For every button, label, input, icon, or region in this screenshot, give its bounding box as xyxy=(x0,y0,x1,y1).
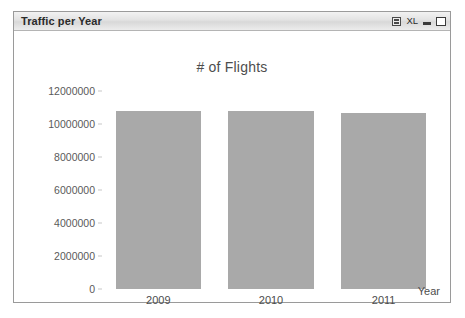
minimize-icon[interactable] xyxy=(423,17,431,25)
y-axis-tick-mark xyxy=(98,223,102,224)
y-axis-tick-mark xyxy=(98,289,102,290)
x-axis-title: Year xyxy=(418,285,440,297)
y-axis-tick-mark xyxy=(98,124,102,125)
y-axis-tick-label: 8000000 xyxy=(54,151,102,163)
plot-area[interactable]: 0200000040000006000000800000010000000120… xyxy=(102,91,440,289)
maximize-icon[interactable] xyxy=(436,17,446,26)
chart-object-window[interactable]: Traffic per Year XL # of Flights 0200000… xyxy=(13,11,451,303)
title-bar[interactable]: Traffic per Year XL xyxy=(14,12,450,31)
bar-2009[interactable] xyxy=(116,111,202,289)
y-axis-tick-mark xyxy=(98,256,102,257)
title-bar-controls: XL xyxy=(392,16,446,26)
y-axis-tick-mark xyxy=(98,190,102,191)
chart-body[interactable]: # of Flights 020000004000000600000080000… xyxy=(14,31,450,302)
print-icon[interactable] xyxy=(392,17,401,26)
x-axis-tick-label: 2009 xyxy=(146,294,170,306)
chart-title: # of Flights xyxy=(14,59,450,75)
y-axis-tick-label: 10000000 xyxy=(48,118,102,130)
window-title: Traffic per Year xyxy=(21,15,102,27)
y-axis-tick-label: 6000000 xyxy=(54,184,102,196)
y-axis-tick-label: 4000000 xyxy=(54,217,102,229)
x-axis-tick-label: 2011 xyxy=(372,294,396,306)
y-axis-tick-mark xyxy=(98,91,102,92)
export-excel-icon[interactable]: XL xyxy=(406,16,418,26)
bar-2011[interactable] xyxy=(341,113,427,289)
y-axis-tick-label: 2000000 xyxy=(54,250,102,262)
y-axis-tick-mark xyxy=(98,157,102,158)
x-axis-tick-label: 2010 xyxy=(259,294,283,306)
bar-2010[interactable] xyxy=(228,111,314,289)
y-axis-tick-label: 12000000 xyxy=(48,85,102,97)
